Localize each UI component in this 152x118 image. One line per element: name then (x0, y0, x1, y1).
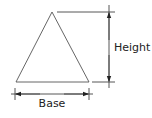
height-label: Height (114, 41, 151, 54)
base-label: Base (39, 97, 66, 110)
triangle-diagram: Height Base (0, 0, 152, 118)
triangle-shape (16, 12, 89, 82)
